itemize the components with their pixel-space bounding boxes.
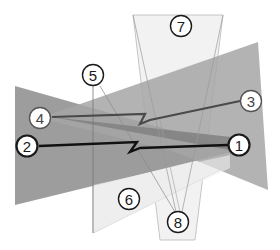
marker-2: 2 bbox=[17, 136, 38, 157]
marker-3-text: 3 bbox=[247, 93, 255, 110]
marker-4: 4 bbox=[30, 108, 51, 129]
marker-6-text: 6 bbox=[125, 191, 133, 208]
marker-8-text: 8 bbox=[174, 214, 182, 231]
marker-1: 1 bbox=[229, 135, 250, 156]
marker-5-text: 5 bbox=[89, 67, 97, 84]
marker-5: 5 bbox=[83, 65, 104, 86]
marker-7: 7 bbox=[171, 16, 192, 37]
marker-7-text: 7 bbox=[177, 18, 185, 35]
marker-1-text: 1 bbox=[235, 137, 243, 154]
marker-2-text: 2 bbox=[23, 138, 31, 155]
marker-8: 8 bbox=[168, 212, 189, 233]
marker-6: 6 bbox=[119, 189, 140, 210]
diagram-canvas: 1 2 3 4 5 6 7 8 bbox=[0, 0, 280, 250]
marker-3: 3 bbox=[241, 91, 262, 112]
diagram-svg: 1 2 3 4 5 6 7 8 bbox=[0, 0, 280, 250]
marker-4-text: 4 bbox=[36, 110, 44, 127]
